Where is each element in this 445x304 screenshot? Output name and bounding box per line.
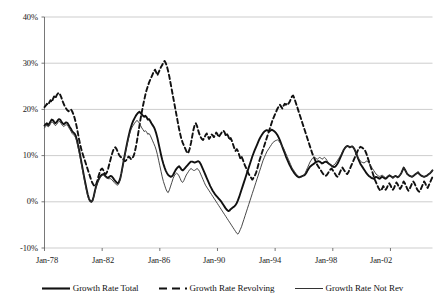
y-tick-label-0: 0%: [4, 196, 38, 206]
data-series: [45, 61, 433, 234]
x-tick-label-jan90: Jan-90: [184, 255, 244, 265]
x-tick-label-jan98: Jan-98: [296, 255, 356, 265]
legend-swatch-dashed-icon: [159, 284, 187, 293]
y-tick-label-30: 30%: [4, 58, 38, 68]
legend-label-not-rev: Growth Rate Not Rev: [326, 283, 404, 293]
x-tick-label-jan78: Jan-78: [17, 255, 77, 265]
y-tick-label-neg10: -10%: [4, 243, 38, 253]
x-tick-label-jan86: Jan-86: [129, 255, 189, 265]
y-tick-label-40: 40%: [4, 12, 38, 22]
legend-label-revolving: Growth Rate Revolving: [190, 283, 275, 293]
x-tick-label-jan82: Jan-82: [73, 255, 133, 265]
legend-item-growth-rate-total: Growth Rate Total: [42, 283, 139, 293]
series-line-growth-rate-total: [45, 112, 433, 211]
legend-item-growth-rate-revolving: Growth Rate Revolving: [159, 283, 275, 293]
x-tick-label-jan02: Jan-02: [351, 255, 411, 265]
gridlines: [45, 17, 433, 248]
y-tick-label-10: 10%: [4, 150, 38, 160]
legend-swatch-solid-thin-icon: [295, 284, 323, 293]
y-tick-label-20: 20%: [4, 104, 38, 114]
chart-legend: Growth Rate Total Growth Rate Revolving …: [0, 278, 445, 298]
chart-container: 40% 30% 20% 10% 0% -10% Jan-78 Jan-82 Ja…: [0, 0, 445, 304]
legend-label-total: Growth Rate Total: [73, 283, 139, 293]
legend-item-growth-rate-not-rev: Growth Rate Not Rev: [295, 283, 404, 293]
x-tick-label-jan94: Jan-94: [240, 255, 300, 265]
legend-swatch-solid-thick-icon: [42, 284, 70, 293]
